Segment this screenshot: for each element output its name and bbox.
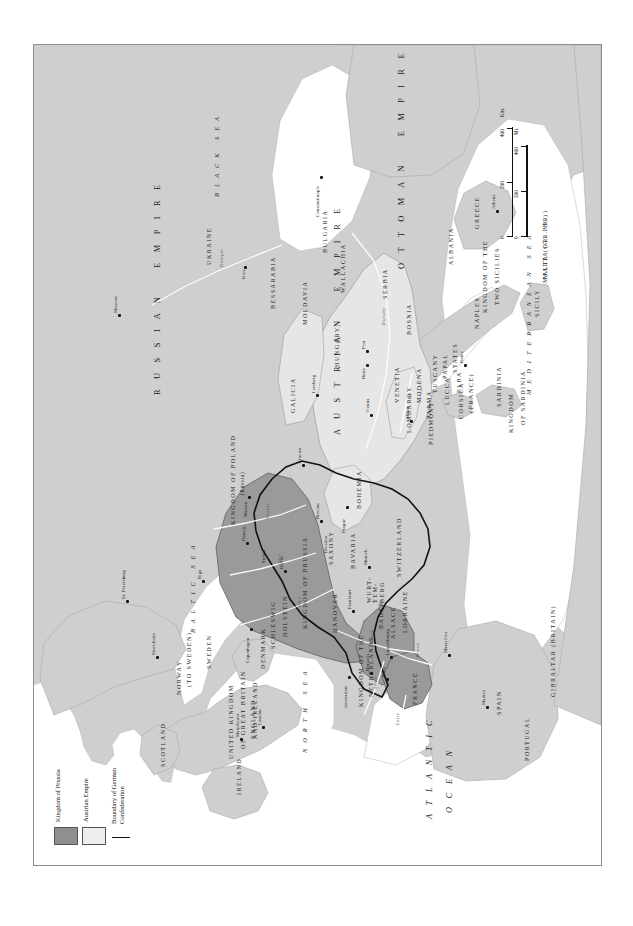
city-dot-munich [368,566,371,569]
city-dot-marseilles [448,654,451,657]
scale-bar-mi: 0 200 400 Mi. [526,145,527,237]
city-dot-london [262,726,265,729]
label-river-rhone: Rhone [416,643,421,657]
legend-label-prussia: Kingdom of Prussia [54,769,62,822]
label-region-baden: BADEN [378,601,384,630]
legend-swatch-austria [82,827,106,845]
label-city-amsterdam: Amsterdam [344,685,349,709]
scale-km-tick-0: 0 [499,236,505,239]
city-dot-madrid [486,706,489,709]
label-region-scotland: SCOTLAND [160,722,166,767]
city-dot-pest [366,350,369,353]
legend-item-austria: Austrian Empire [82,768,106,845]
legend-item-confederation: Boundary of German Confederation [110,768,132,845]
city-dot-lemberg [316,394,319,397]
label-city-paris: Paris [382,667,387,677]
scale-mi-tick-1: 200 [513,190,519,198]
label-city-buda: Buda [362,368,367,379]
label-region-modena: MODENA [416,367,422,403]
label-city-stockholm: Stockholm [152,633,157,655]
city-dot-amsterdam [348,676,351,679]
map-canvas: R U S S I A N E M P I R E O T T O M A N … [34,45,601,865]
label-alsace: ALSACE [390,606,396,639]
label-region-ireland: IRELAND [236,758,242,795]
label-region-venetia: VENETIA [394,366,400,403]
legend-label-austria: Austrian Empire [82,778,90,822]
city-dot-warsaw [248,496,251,499]
city-dot-breslau [320,520,323,523]
scale-bar: 0 200 400 Km. 0 200 400 Mi. [512,117,528,237]
label-city-prague: Prague [342,519,347,533]
label-river-danube: Danube [382,307,387,325]
label-region-denmark: DENMARK [260,628,266,669]
label-city-frankfort: Frankfort [348,589,353,609]
label-malta: MALTA (GR. BR.) [542,209,548,279]
city-dot-buda [366,364,369,367]
label-kingdom-of-netherlands-1: KINGDOM OF THE [358,634,364,707]
label-river-loire: Loire [396,713,401,725]
label-region-greece: GREECE [474,196,480,229]
label-kingdom-sardinia1: KINGDOM [508,393,514,433]
label-region-sardinia: SARDINIA [496,366,502,407]
label-region-bavaria: BAVARIA [350,532,356,569]
label-region-saxony: SAXONY [328,531,334,565]
scale-km-tick-2: 400 [499,129,505,137]
label-city-rome: Rome [460,351,465,363]
label-region-hanover: HANOVER [332,593,338,633]
label-city-danzig: Danzig [242,526,247,541]
city-dot-stockholm [156,656,159,659]
scale-km-unit: Km. [499,108,505,117]
label-region-lucca: LUCCA [444,377,450,405]
label-river-seine: Seine [374,677,379,689]
label-two-sicilies1: KINGDOM OF THE [482,240,488,313]
label-region-wallachia: WALLACHIA [340,243,346,293]
city-dot-st-petersburg [126,600,129,603]
label-river-oder: Oder [278,554,283,565]
label-austrian-empire: A U S T R I A N E M P I R E [334,204,343,435]
label-region-bosnia: BOSNIA [406,303,412,335]
label-norway-sub: (TO SWEDEN) [186,632,192,687]
label-norway: NORWAY [176,660,182,695]
label-city-kiev: Kiev [242,269,247,279]
city-dot-vienna [370,414,373,417]
label-region-spain: SPAIN [496,690,502,715]
label-city-lemberg: Lemberg [312,375,317,393]
label-region-hungary: HUNGARY [334,326,340,367]
label-region-portugal: PORTUGAL [524,717,530,761]
city-dot-paris [386,678,389,681]
label-region-moldavia: MOLDAVIA [302,281,308,325]
city-dot-frankfort [352,610,355,613]
label-city-vienna: Vienna [366,399,371,413]
scale-km-tick-1: 200 [499,181,505,189]
label-region-france: FRANCE [412,672,418,705]
label-city-cracow: Cracow [298,447,303,463]
label-city-manchester: Manchester [236,713,241,737]
label-city-dresden: Dresden [324,536,329,553]
landmass-ireland [202,765,268,819]
label-region-bulgaria: BULGARIA [322,210,328,253]
city-dot-berlin [284,570,287,573]
map-page: R U S S I A N E M P I R E O T T O M A N … [0,0,633,926]
map-legend: Kingdom of Prussia Austrian Empire Bound… [54,768,136,845]
legend-swatch-prussia [54,827,78,845]
city-dot-athens [496,210,499,213]
label-region-albania: ALBANIA [448,227,454,265]
label-city-munich: Munich [364,549,369,565]
label-wurttemberg: WURT- TEM- BERG [366,576,385,603]
city-dot-moscow [118,314,121,317]
label-city-warsaw: Warsaw [244,501,249,517]
label-city-marseilles: Marseilles [444,631,449,653]
scale-mi-tick-2: 400 [513,147,519,155]
label-river-elbe: Elbe [298,597,303,607]
label-corsica1: CORSICA [458,382,464,419]
label-city-moscow: Moscow [114,296,119,313]
label-gibraltar: GIBRALTAR (BRITAIN) [550,605,556,697]
label-city-madrid: Madrid [482,690,487,705]
legend-swatch-confederation-line [110,829,132,845]
label-ottoman-empire: O T T O M A N E M P I R E [398,49,407,269]
label-atlantic-ocean-1: A T L A N T I C [426,717,435,819]
label-city-constantinople: Constantinople [316,186,321,217]
label-baltic-sea: B A L T I C S E A [190,543,197,633]
label-papal2: STATES [452,343,458,373]
label-region-galicia: GALICIA [290,377,296,413]
